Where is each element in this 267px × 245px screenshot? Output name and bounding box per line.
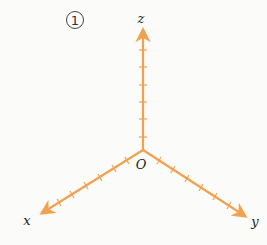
y-axis-label: y: [250, 214, 259, 229]
x-axis: x: [23, 150, 143, 228]
figure-index-badge: 1: [67, 12, 84, 29]
y-axis: y: [143, 150, 259, 229]
figure-index-number: 1: [71, 13, 79, 28]
z-axis-label: z: [137, 11, 145, 26]
axes-diagram: 1 z x: [0, 0, 267, 245]
coordinate-system-figure: 1 z x: [0, 0, 267, 245]
z-axis: z: [137, 11, 147, 150]
origin-label: O: [136, 157, 147, 172]
x-axis-label: x: [23, 213, 31, 228]
